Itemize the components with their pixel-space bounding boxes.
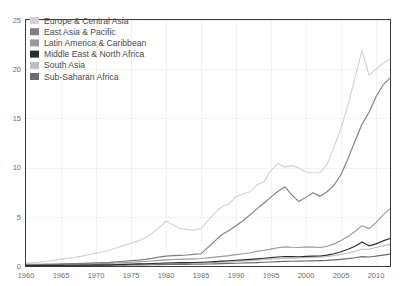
legend-label: East Asia & Pacific [44,27,116,37]
legend-label: Europe & Central Asia [44,16,129,26]
x-axis-tick-label: 2005 [333,271,350,280]
x-axis-tick-label: 2010 [368,271,385,280]
chart-legend: Europe & Central AsiaEast Asia & Pacific… [30,16,146,82]
x-axis-tick-label: 2000 [298,271,315,280]
legend-label: Middle East & North Africa [44,49,145,59]
series-lines [26,51,390,266]
x-axis-tick-label: 1995 [263,271,280,280]
legend-swatch [30,62,39,69]
y-axis-tick-label: 20 [13,65,21,74]
y-axis-tick-label: 0 [17,262,21,271]
legend-swatch [30,17,39,24]
x-axis-tick-labels: 1960196519701975198019851990199520002005… [18,271,385,280]
x-axis-tick-label: 1965 [53,271,70,280]
legend-label: South Asia [44,60,85,70]
x-axis-tick-label: 1970 [88,271,105,280]
legend-swatch [30,28,39,35]
series-line [26,78,390,264]
series-line [26,238,390,265]
line-chart: 0510152025 19601965197019751980198519901… [0,0,402,286]
x-axis-tick-label: 1960 [18,271,35,280]
legend-label: Latin America & Caribbean [44,38,146,48]
y-axis-tick-label: 5 [17,213,21,222]
chart-container: 0510152025 19601965197019751980198519901… [0,0,402,286]
legend-swatch [30,51,39,58]
y-axis-tick-label: 15 [13,114,21,123]
y-axis-tick-label: 25 [13,16,21,25]
legend-swatch [30,73,39,80]
legend-swatch [30,39,39,46]
y-axis-tick-labels: 0510152025 [13,16,21,271]
x-axis-tick-label: 1990 [228,271,245,280]
x-axis-tick-label: 1985 [193,271,210,280]
legend-label: Sub-Saharan Africa [44,72,119,82]
x-axis-tick-label: 1980 [158,271,175,280]
x-axis-tick-label: 1975 [123,271,140,280]
y-axis-tick-label: 10 [13,163,21,172]
series-line [26,51,390,264]
